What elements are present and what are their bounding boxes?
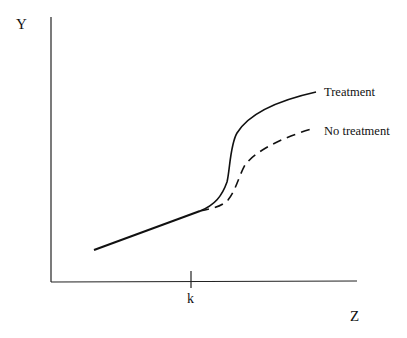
x-axis xyxy=(51,281,357,282)
legend-no-treatment: No treatment xyxy=(324,124,390,138)
y-axis-label: Y xyxy=(16,16,27,32)
treatment-curve xyxy=(200,92,316,211)
baseline-segment xyxy=(94,211,200,250)
tick-label-k: k xyxy=(187,291,194,306)
diagram: Y Z k Treatment No treatment xyxy=(0,0,407,338)
x-axis-label: Z xyxy=(350,308,359,324)
legend-treatment: Treatment xyxy=(324,85,375,99)
